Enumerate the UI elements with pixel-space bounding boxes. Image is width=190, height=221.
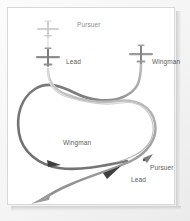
aircraft-wingman-top	[129, 44, 153, 64]
label-wingman-mid: Wingman	[63, 139, 91, 147]
wingman-arrowhead	[47, 160, 61, 167]
aircraft-lead-top	[36, 47, 60, 67]
aircraft-pursuer-top	[37, 20, 59, 38]
wingman-nose	[137, 44, 144, 46]
frame-shadow-bottom	[11, 206, 181, 211]
pursuer-endpoint-dot	[143, 159, 145, 161]
wingman-flight-path	[18, 63, 141, 169]
label-pursuer-bottom: Pursuer	[150, 164, 173, 172]
pursuer-tailplane	[44, 35, 52, 37]
label-wingman-top: Wingman	[152, 58, 180, 66]
flight-path-illustration	[7, 7, 175, 205]
pursuer-nose	[45, 20, 52, 21]
label-lead-bottom: Lead	[131, 176, 146, 184]
lead-tailplane	[44, 64, 53, 66]
wingman-tailplane	[137, 61, 146, 63]
lead-nose	[44, 47, 51, 49]
label-pursuer-top: Pursuer	[77, 21, 100, 29]
wingman-path-group	[18, 63, 141, 169]
label-lead-top: Lead	[66, 58, 81, 66]
diagram-container: Pursuer Lead Wingman Wingman Pursuer Lea…	[0, 0, 190, 221]
frame-shadow-right	[176, 11, 181, 209]
pursuer-endpoint-marker	[143, 154, 153, 163]
